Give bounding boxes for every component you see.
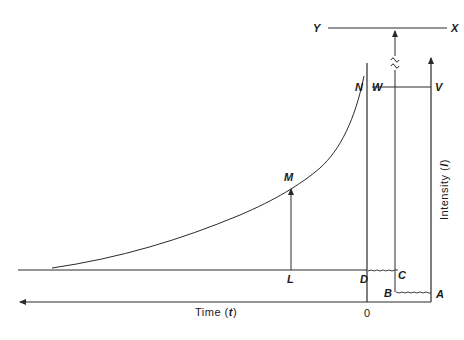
label-w: W [372, 81, 384, 93]
time-axis-title: Time (t) [195, 306, 237, 318]
diagram-canvas: Y X N W V M L D C B A 0 Time (t) Intensi… [0, 0, 464, 340]
ba-noisy-segment [396, 292, 431, 293]
label-c: C [398, 269, 407, 281]
label-v: V [435, 81, 444, 93]
intensity-axis-title: Intensity (I) [438, 159, 450, 220]
label-n: N [355, 81, 364, 93]
time-origin-label: 0 [364, 307, 370, 319]
label-a: A [435, 288, 444, 300]
label-x: X [450, 22, 459, 34]
label-d: D [360, 273, 368, 285]
label-l: L [287, 273, 294, 285]
intensity-time-diagram: Y X N W V M L D C B A 0 Time (t) Intensi… [0, 0, 464, 340]
dc-noisy-segment [368, 270, 398, 271]
break-symbol-icon-2 [391, 58, 399, 62]
intensity-curve [52, 76, 364, 268]
label-m: M [284, 171, 294, 183]
label-y: Y [313, 22, 322, 34]
break-symbol-icon [391, 64, 399, 68]
label-b: B [384, 287, 392, 299]
